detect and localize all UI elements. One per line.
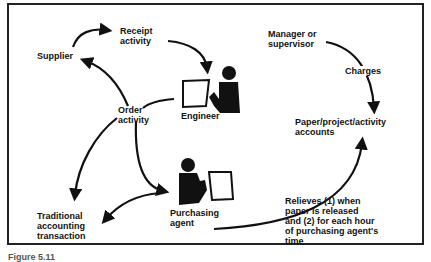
figure-caption: Figure 5.11 xyxy=(8,252,55,262)
traditional-label: Traditional accounting transaction xyxy=(37,211,86,241)
arrow-purchasing-to-traditional xyxy=(106,193,160,219)
arrow-order-to-purchasing xyxy=(136,121,163,191)
purchasing-agent-icon xyxy=(179,158,233,205)
manager-label: Manager or supervisor xyxy=(268,29,317,49)
arrow-supplier-to-receipt xyxy=(73,30,106,47)
arrow-order-to-supplier xyxy=(86,61,128,106)
receipt-activity-label: Receipt activity xyxy=(120,26,153,46)
order-activity-label: Order activity xyxy=(118,105,149,125)
arrow-receipt-to-engineer xyxy=(168,41,207,68)
purchasing-agent-label: Purchasing agent xyxy=(170,208,219,228)
supplier-label: Supplier xyxy=(37,51,73,61)
arrow-order-to-traditional xyxy=(75,118,117,195)
accounts-label: Paper/project/activity accounts xyxy=(295,117,386,137)
engineer-icon xyxy=(183,66,240,113)
charges-label: Charges xyxy=(345,66,381,76)
relieves-label: Relieves (1) when paper is released and … xyxy=(285,196,378,246)
engineer-label: Engineer xyxy=(181,111,220,121)
